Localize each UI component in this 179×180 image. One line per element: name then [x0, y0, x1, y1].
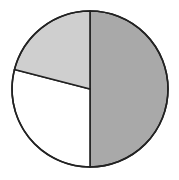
pie-chart-svg [0, 0, 179, 180]
pie-slice-1 [90, 11, 168, 167]
pie-chart [0, 0, 179, 180]
